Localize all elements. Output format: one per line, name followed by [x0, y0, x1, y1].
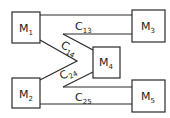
node-m2: M2 [12, 78, 40, 108]
edge-label-c13: C13 [75, 20, 92, 35]
edge-label-c25: C25 [75, 91, 92, 106]
node-m1: M1 [12, 12, 40, 43]
channel-diagram: M1 M2 M3 M4 M5 C13 C14 C24 C25 [0, 0, 170, 118]
node-m4: M4 [93, 47, 120, 78]
node-m3: M3 [132, 10, 165, 42]
edge-label-c24: C24 [57, 63, 79, 84]
node-m5: M5 [132, 80, 165, 112]
